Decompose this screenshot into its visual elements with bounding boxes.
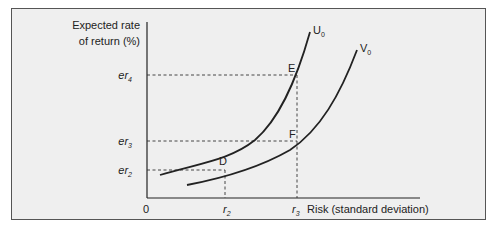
point-f-label: F (289, 128, 296, 140)
x-axis-label: Risk (standard deviation) (307, 203, 429, 215)
y-tick-er4: er4 (118, 69, 132, 83)
y-axis-label-line2: of return (%) (79, 35, 140, 47)
diagram-root: Expected rate of return (%) er4 er3 er2 … (0, 0, 495, 231)
y-tick-er2: er2 (118, 164, 132, 178)
x-tick-r3: r3 (292, 203, 300, 217)
point-d-label: D (219, 155, 227, 167)
x-tick-r2: r2 (223, 203, 231, 217)
y-axis-label-line1: Expected rate (72, 19, 140, 31)
indifference-curve-diagram: Expected rate of return (%) er4 er3 er2 … (0, 0, 495, 231)
origin-label: 0 (143, 203, 149, 215)
curve-u0-label: U0 (313, 24, 325, 38)
curve-u0 (160, 32, 310, 175)
curve-v0-label: V0 (360, 42, 371, 56)
curve-v0 (187, 50, 357, 185)
y-tick-er3: er3 (118, 135, 132, 149)
guide-lines (147, 75, 297, 198)
point-e-label: E (288, 62, 295, 74)
